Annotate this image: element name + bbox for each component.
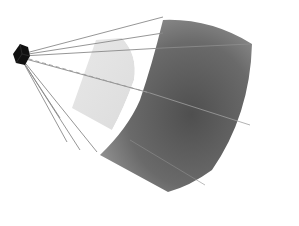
ray: [22, 60, 67, 142]
ray: [22, 60, 60, 118]
diagram-canvas: [0, 0, 299, 226]
projection-diagram: [0, 0, 299, 226]
